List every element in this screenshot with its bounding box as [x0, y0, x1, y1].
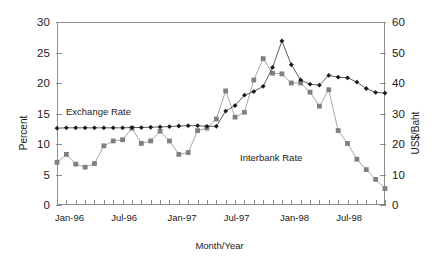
y-tick-label-right: 30	[392, 108, 405, 120]
x-tick-label: Jul-96	[111, 212, 137, 223]
series-line	[57, 59, 385, 189]
data-point-marker	[139, 141, 144, 146]
x-tick-label: Jan-98	[280, 212, 309, 223]
data-point-marker	[345, 141, 350, 146]
plot-area: 051015202530 0102030405060 Jan-96Jul-96J…	[57, 22, 385, 205]
data-point-marker	[186, 150, 191, 155]
data-point-marker	[373, 90, 378, 95]
y-tick-label-right: 20	[392, 138, 405, 150]
data-point-marker	[345, 75, 350, 80]
data-point-marker	[195, 123, 200, 128]
y-tick-label-left: 5	[44, 169, 51, 181]
data-point-marker	[289, 62, 294, 67]
data-point-marker	[158, 125, 163, 130]
data-point-marker	[92, 161, 97, 166]
data-point-marker	[280, 71, 285, 76]
y-tick-label-left: 20	[37, 77, 50, 89]
series-line	[57, 41, 385, 128]
data-point-marker	[64, 152, 69, 157]
data-point-marker	[270, 65, 275, 70]
data-point-marker	[64, 125, 69, 130]
y-tick-label-left: 10	[37, 138, 50, 150]
x-tick	[385, 200, 386, 205]
y-tick-right	[380, 205, 386, 206]
data-point-marker	[251, 89, 256, 94]
data-point-marker	[158, 129, 163, 134]
data-point-marker	[120, 125, 125, 130]
data-point-marker	[195, 128, 200, 133]
data-point-marker	[289, 81, 294, 86]
series-layer	[57, 22, 385, 205]
data-point-marker	[139, 125, 144, 130]
data-point-marker	[120, 137, 125, 142]
chart-container: Percent US$/Baht Month/Year Exchange Rat…	[0, 0, 439, 266]
data-point-marker	[167, 124, 172, 129]
data-point-marker	[148, 125, 153, 130]
data-point-marker	[308, 90, 313, 95]
data-point-marker	[383, 91, 388, 96]
data-point-marker	[223, 89, 228, 94]
data-point-marker	[92, 125, 97, 130]
data-point-marker	[111, 125, 116, 130]
data-point-marker	[308, 82, 313, 87]
y-tick-label-right: 0	[392, 199, 399, 211]
data-point-marker	[167, 139, 172, 144]
data-point-marker	[326, 87, 331, 92]
data-point-marker	[373, 177, 378, 182]
y-tick-label-left: 0	[44, 199, 51, 211]
data-point-marker	[111, 139, 116, 144]
x-tick-label: Jul-97	[224, 212, 250, 223]
data-point-marker	[148, 139, 153, 144]
data-point-marker	[83, 165, 88, 170]
data-point-marker	[233, 115, 238, 120]
y-tick-label-left: 30	[37, 16, 50, 28]
data-point-marker	[280, 39, 285, 44]
series-exchange-rate	[55, 39, 388, 131]
data-point-marker	[261, 84, 266, 89]
data-point-marker	[186, 123, 191, 128]
x-tick-label: Jul-98	[336, 212, 362, 223]
y-tick-label-right: 40	[392, 77, 405, 89]
data-point-marker	[214, 124, 219, 129]
data-point-marker	[364, 167, 369, 172]
y-tick-label-right: 10	[392, 169, 405, 181]
data-point-marker	[336, 128, 341, 133]
y-tick-label-right: 60	[392, 16, 405, 28]
data-point-marker	[354, 157, 359, 162]
data-point-marker	[55, 126, 60, 131]
data-point-marker	[73, 162, 78, 167]
data-point-marker	[55, 160, 60, 165]
y-axis-right-title: US$/Baht	[410, 112, 421, 155]
x-axis-title: Month/Year	[0, 240, 439, 251]
data-point-marker	[214, 117, 219, 122]
data-point-marker	[354, 80, 359, 85]
y-axis-left-title: Percent	[18, 116, 29, 150]
x-tick-label: Jan-96	[55, 212, 84, 223]
data-point-marker	[101, 125, 106, 130]
data-point-marker	[176, 124, 181, 129]
data-point-marker	[101, 143, 106, 148]
data-point-marker	[364, 86, 369, 91]
data-point-marker	[176, 152, 181, 157]
x-tick-label: Jan-97	[167, 212, 196, 223]
y-tick-label-left: 15	[37, 108, 50, 120]
data-point-marker	[383, 186, 388, 191]
data-point-marker	[317, 104, 322, 109]
y-tick-label-left: 25	[37, 47, 50, 59]
data-point-marker	[83, 125, 88, 130]
data-point-marker	[242, 110, 247, 115]
y-tick-label-right: 50	[392, 47, 405, 59]
data-point-marker	[336, 75, 341, 80]
data-point-marker	[73, 125, 78, 130]
data-point-marker	[251, 78, 256, 83]
data-point-marker	[261, 56, 266, 61]
data-point-marker	[223, 109, 228, 114]
y-tick-left	[56, 205, 62, 206]
